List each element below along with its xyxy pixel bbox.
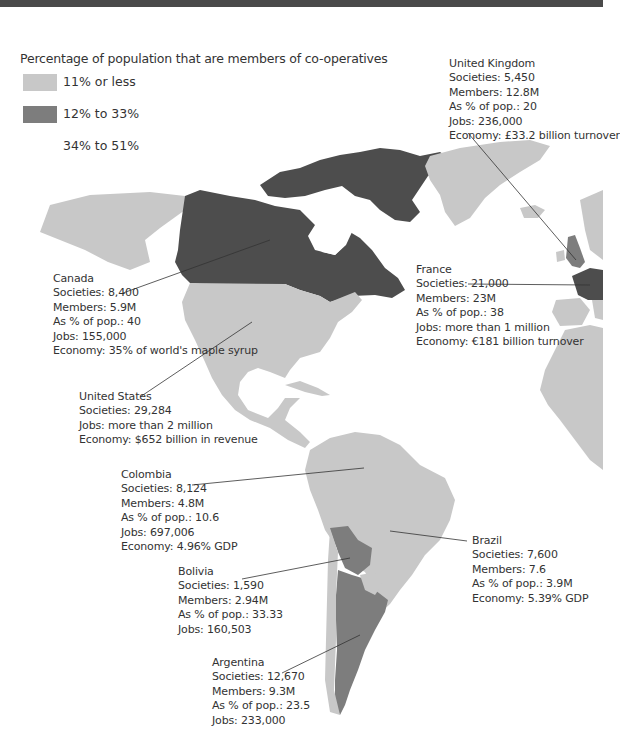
region-europe-east bbox=[592, 300, 603, 320]
callout-usa-jobs: Jobs: more than 2 million bbox=[79, 419, 258, 433]
callout-colombia-societies: Societies: 8,124 bbox=[121, 482, 237, 496]
legend-title: Percentage of population that are member… bbox=[20, 51, 388, 66]
callout-argentina-name: Argentina bbox=[212, 656, 310, 670]
callout-brazil-pct: As % of pop.: 3.9M bbox=[472, 577, 588, 591]
callout-uk-name: United Kingdom bbox=[449, 57, 620, 71]
callout-canada-pct: As % of pop.: 40 bbox=[53, 315, 258, 329]
callout-colombia-economy: Economy: 4.96% GDP bbox=[121, 540, 237, 554]
callout-canada-name: Canada bbox=[53, 272, 258, 286]
callout-canada-societies: Societies: 8,400 bbox=[53, 286, 258, 300]
callout-france: France Societies: 21,000 Members: 23M As… bbox=[416, 263, 584, 349]
callout-bolivia-members: Members: 2.94M bbox=[178, 594, 283, 608]
region-scandinavia bbox=[580, 190, 603, 260]
callout-usa-societies: Societies: 29,284 bbox=[79, 404, 258, 418]
callout-bolivia-name: Bolivia bbox=[178, 565, 283, 579]
callout-canada-jobs: Jobs: 155,000 bbox=[53, 330, 258, 344]
callout-brazil-economy: Economy: 5.39% GDP bbox=[472, 592, 588, 606]
legend-item-high: 34% to 51% bbox=[20, 136, 388, 162]
callout-brazil-name: Brazil bbox=[472, 534, 588, 548]
legend-swatch-high bbox=[23, 138, 57, 155]
callout-canada: Canada Societies: 8,400 Members: 5.9M As… bbox=[53, 272, 258, 358]
callout-france-societies: Societies: 21,000 bbox=[416, 277, 584, 291]
callout-uk-pct: As % of pop.: 20 bbox=[449, 100, 620, 114]
callout-uk-societies: Societies: 5,450 bbox=[449, 71, 620, 85]
legend-item-low: 11% or less bbox=[20, 72, 388, 98]
legend-label-high: 34% to 51% bbox=[63, 138, 139, 153]
callout-brazil: Brazil Societies: 7,600 Members: 7.6 As … bbox=[472, 534, 588, 606]
callout-france-name: France bbox=[416, 263, 584, 277]
callout-france-economy: Economy: €181 billion turnover bbox=[416, 335, 584, 349]
callout-brazil-members: Members: 7.6 bbox=[472, 563, 588, 577]
callout-colombia-name: Colombia bbox=[121, 468, 237, 482]
callout-argentina-jobs: Jobs: 233,000 bbox=[212, 714, 310, 728]
callout-bolivia: Bolivia Societies: 1,590 Members: 2.94M … bbox=[178, 565, 283, 637]
callout-argentina: Argentina Societies: 12,670 Members: 9.3… bbox=[212, 656, 310, 728]
legend-swatch-low bbox=[23, 74, 57, 91]
callout-uk-members: Members: 12.8M bbox=[449, 86, 620, 100]
callout-bolivia-societies: Societies: 1,590 bbox=[178, 579, 283, 593]
callout-uk-economy: Economy: £33.2 billion turnover bbox=[449, 129, 620, 143]
callout-colombia-jobs: Jobs: 697,006 bbox=[121, 526, 237, 540]
callout-uk-jobs: Jobs: 236,000 bbox=[449, 115, 620, 129]
callout-bolivia-pct: As % of pop.: 33.33 bbox=[178, 608, 283, 622]
callout-colombia-pct: As % of pop.: 10.6 bbox=[121, 511, 237, 525]
legend-label-low: 11% or less bbox=[63, 74, 136, 89]
callout-colombia-members: Members: 4.8M bbox=[121, 497, 237, 511]
region-ireland bbox=[556, 250, 565, 262]
callout-colombia: Colombia Societies: 8,124 Members: 4.8M … bbox=[121, 468, 237, 554]
callout-uk: United Kingdom Societies: 5,450 Members:… bbox=[449, 57, 620, 143]
callout-bolivia-jobs: Jobs: 160,503 bbox=[178, 623, 283, 637]
callout-france-members: Members: 23M bbox=[416, 292, 584, 306]
callout-usa-name: United States bbox=[79, 390, 258, 404]
callout-canada-economy: Economy: 35% of world's maple syrup bbox=[53, 344, 258, 358]
legend: Percentage of population that are member… bbox=[20, 51, 388, 162]
region-iceland bbox=[520, 205, 545, 218]
callout-argentina-members: Members: 9.3M bbox=[212, 685, 310, 699]
region-caribbean bbox=[285, 381, 330, 396]
callout-canada-members: Members: 5.9M bbox=[53, 301, 258, 315]
callout-usa: United States Societies: 29,284 Jobs: mo… bbox=[79, 390, 258, 448]
callout-brazil-societies: Societies: 7,600 bbox=[472, 548, 588, 562]
callout-france-jobs: Jobs: more than 1 million bbox=[416, 321, 584, 335]
region-alaska bbox=[40, 192, 185, 270]
legend-swatch-mid bbox=[23, 106, 57, 123]
legend-label-mid: 12% to 33% bbox=[63, 106, 139, 121]
callout-argentina-pct: As % of pop.: 23.5 bbox=[212, 699, 310, 713]
callout-argentina-societies: Societies: 12,670 bbox=[212, 670, 310, 684]
callout-france-pct: As % of pop.: 38 bbox=[416, 306, 584, 320]
callout-usa-economy: Economy: $652 billion in revenue bbox=[79, 433, 258, 447]
legend-item-mid: 12% to 33% bbox=[20, 104, 388, 130]
